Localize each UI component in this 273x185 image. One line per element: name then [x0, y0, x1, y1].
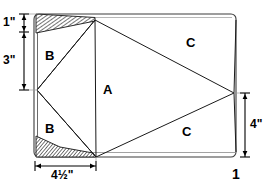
- dim-3in-arrow-up: [22, 33, 27, 38]
- region-a-polygon: [37, 20, 234, 157]
- dim-1in-arrow-down: [22, 26, 27, 31]
- dim-4in-arrow-down: [243, 151, 248, 156]
- dim-1in-arrow-up: [22, 15, 27, 20]
- left-dimension-lines: [19, 14, 38, 90]
- diagram-canvas: [0, 0, 273, 185]
- dim-45in-arrow-right: [90, 164, 95, 169]
- dimension-label-3-inch: 3": [3, 54, 15, 66]
- region-label-c-upper: C: [186, 36, 195, 49]
- dimension-label-4-inch: 4": [250, 118, 262, 130]
- dimension-label-1-inch: 1": [3, 16, 15, 28]
- figure-number: 1: [232, 167, 240, 181]
- outer-rectangle: [34, 14, 236, 157]
- b-region-divider-line: [95, 20, 96, 157]
- region-label-b-upper: B: [45, 49, 54, 62]
- dimension-label-4-and-a-half-inch: 4½": [51, 169, 73, 181]
- dim-4in-arrow-up: [243, 94, 248, 99]
- region-label-a: A: [103, 83, 112, 96]
- figure-container: A B B C C 1" 3" 4" 4½" 1: [0, 0, 273, 185]
- dim-3in-arrow-down: [22, 84, 27, 89]
- interior-cut-lines: [37, 20, 236, 157]
- dim-45in-arrow-left: [36, 164, 41, 169]
- region-label-c-lower: C: [182, 125, 191, 138]
- region-label-b-lower: B: [45, 122, 54, 135]
- board-outline: [34, 14, 236, 157]
